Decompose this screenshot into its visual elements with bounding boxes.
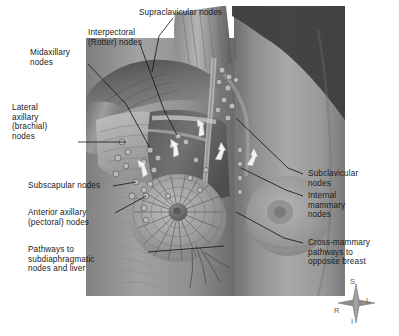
anatomy-figure: Supraclavicular nodes Interpectoral (Rot… [0,0,399,336]
torso-body [86,6,345,296]
label-subscapular-nodes: Subscapular nodes [28,181,100,191]
compass-left-label: L [366,297,370,305]
label-internal-mammary-nodes: Internal mammary nodes [308,191,345,220]
label-subclavicular-nodes: Subclavicular nodes [308,169,358,188]
label-midaxillary-nodes: Midaxillary nodes [30,48,70,67]
label-subdiaphragmatic-pathways: Pathways to subdiaphragmatic nodes and l… [28,245,95,274]
compass-star-icon [333,278,381,330]
label-interpectoral-nodes: Interpectoral (Rotter) nodes [88,28,142,47]
label-anterior-axillary-nodes: Anterior axillary (pectoral) nodes [28,208,89,227]
compass-inferior-label: I [351,318,353,326]
label-supraclavicular-nodes: Supraclavicular nodes [139,8,222,18]
compass-right-label: R [334,307,339,315]
label-lateral-axillary-nodes: Lateral axillary (brachial) nodes [12,103,47,141]
label-cross-mammary-pathways: Cross-mammary pathways to opposite breas… [308,238,370,267]
orientation-compass: S I R L [333,278,395,334]
compass-superior-label: S [350,278,355,286]
